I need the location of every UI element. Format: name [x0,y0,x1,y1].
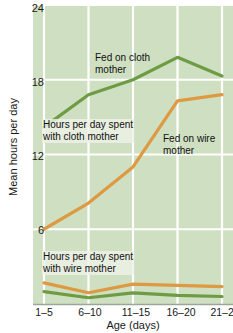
chart-canvas [0,0,233,333]
annotation-fed-on-cloth-mother-line2: mother [95,64,150,76]
annotation-hours-with-wire-mother-line1: Hours per day spent [43,251,133,263]
y-axis-title: Mean hours per day [7,77,19,217]
annotation-hours-with-cloth-mother-line2: with cloth mother [43,131,133,143]
annotation-fed-on-cloth-mother-line1: Fed on cloth [95,52,150,64]
annotation-fed-on-wire-mother: Fed on wire mother [163,133,215,157]
annotation-hours-with-wire-mother: Hours per day spent with wire mother [42,251,134,275]
annotation-hours-with-wire-mother-line2: with wire mother [43,263,133,275]
y-tick-label-24: 24 [18,2,44,14]
annotation-hours-with-cloth-mother: Hours per day spent with cloth mother [42,119,134,143]
y-tick-label-18: 18 [18,76,44,88]
y-tick-label-12: 12 [18,150,44,162]
chart-figure: 24 18 12 6 1–5 6–10 11–15 16–20 21–25 Me… [0,0,233,333]
x-tick-label-21-25: 21–25 [198,306,233,318]
annotation-hours-with-cloth-mother-line1: Hours per day spent [43,119,133,131]
annotation-fed-on-cloth-mother: Fed on cloth mother [95,52,150,76]
annotation-fed-on-wire-mother-line2: mother [163,145,215,157]
y-tick-label-6: 6 [18,224,44,236]
annotation-fed-on-wire-mother-line1: Fed on wire [163,133,215,145]
x-axis-title: Age (days) [33,319,233,331]
